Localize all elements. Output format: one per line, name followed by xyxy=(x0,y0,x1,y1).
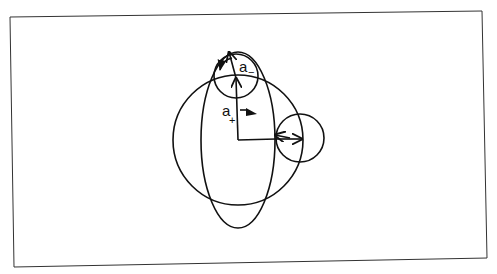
svg-text:a: a xyxy=(239,58,248,75)
horizontal-back-arrow xyxy=(275,135,290,138)
horizontal-vector xyxy=(238,139,276,140)
vertical-vector xyxy=(236,78,238,140)
svg-text:+: + xyxy=(229,114,235,126)
vertical-vector-extension xyxy=(229,52,236,78)
rotation-arrowhead-plus-icon xyxy=(246,108,257,116)
epicycle-diagram: a − a + xyxy=(0,0,497,274)
svg-text:−: − xyxy=(248,66,254,78)
label-a-plus: a + xyxy=(222,102,235,126)
